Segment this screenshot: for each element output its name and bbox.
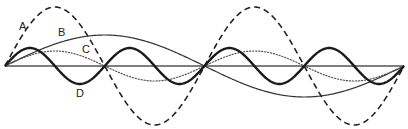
label-a: A [19,20,27,32]
wave-diagram: A B C D [0,0,408,129]
label-b: B [58,26,65,38]
wave-diagram-svg: A B C D [0,0,408,129]
label-d: D [76,87,84,99]
label-c: C [82,43,90,55]
